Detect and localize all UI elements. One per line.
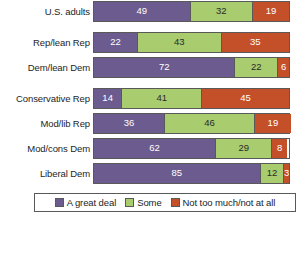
stacked-bar: 224335 [93,32,290,53]
legend-swatch-icon [171,198,180,207]
bar-row-label: Liberal Dem [0,168,93,179]
bar-row-label: U.S. adults [0,6,93,17]
legend-item-great[interactable]: A great deal [55,197,117,208]
bar-segment-some: 29 [215,139,272,158]
bar-segment-great: 72 [94,58,234,77]
bar-segment-nottoo: 35 [221,33,289,52]
bar-row-label: Rep/lean Rep [0,37,93,48]
stacked-bar: 62298 [93,138,290,159]
chart-legend: A great dealSomeNot too much/not at all [34,193,296,212]
chart-footnote [0,265,303,276]
legend-item-label: Not too much/not at all [183,197,276,208]
legend-swatch-icon [55,198,64,207]
stacked-bar: 85123 [93,163,290,184]
bar-segment-great: 14 [94,89,121,108]
bar-row: Rep/lean Rep224335 [0,31,303,53]
bar-row: Liberal Dem85123 [0,162,303,184]
chart-plot-area: U.S. adults493219Rep/lean Rep224335Dem/l… [0,0,303,184]
legend-item-some[interactable]: Some [125,197,161,208]
bar-segment-great: 22 [94,33,137,52]
bar-row: Dem/lean Dem72226 [0,56,303,78]
bar-row-label: Dem/lean Dem [0,62,93,73]
stacked-bar: 364619 [93,113,290,134]
stacked-bar: 72226 [93,57,290,78]
bar-segment-some: 32 [190,2,252,21]
legend-item-nottoo[interactable]: Not too much/not at all [171,197,276,208]
bar-segment-some: 41 [121,89,201,108]
bar-segment-great: 62 [94,139,215,158]
bar-segment-great: 49 [94,2,190,21]
bar-row: U.S. adults493219 [0,0,303,22]
bar-segment-great: 85 [94,164,260,183]
stacked-bar: 144145 [93,88,290,109]
bar-row-label: Mod/cons Dem [0,143,93,154]
bar-segment-great: 36 [94,114,164,133]
bar-row-label: Mod/lib Rep [0,118,93,129]
bar-segment-some: 22 [234,58,277,77]
bar-row-label: Conservative Rep [0,93,93,104]
bar-row: Conservative Rep144145 [0,87,303,109]
bar-group: U.S. adults493219 [0,0,303,22]
stacked-bar-chart: U.S. adults493219Rep/lean Rep224335Dem/l… [0,0,303,276]
bar-segment-nottoo: 19 [254,114,291,133]
bar-segment-some: 43 [137,33,221,52]
bar-row: Mod/lib Rep364619 [0,112,303,134]
bar-segment-nottoo: 45 [201,89,289,108]
bar-group: Conservative Rep144145Mod/lib Rep364619M… [0,87,303,184]
bar-segment-nottoo: 6 [277,58,289,77]
bar-segment-nottoo: 3 [283,164,289,183]
bar-segment-nottoo: 19 [252,2,289,21]
legend-item-label: A great deal [67,197,117,208]
stacked-bar: 493219 [93,1,290,22]
legend-swatch-icon [125,198,134,207]
bar-segment-some: 46 [164,114,254,133]
bar-row: Mod/cons Dem62298 [0,137,303,159]
bar-segment-some: 12 [260,164,283,183]
legend-item-label: Some [137,197,161,208]
bar-group: Rep/lean Rep224335Dem/lean Dem72226 [0,31,303,78]
bar-segment-nottoo: 8 [271,139,287,158]
